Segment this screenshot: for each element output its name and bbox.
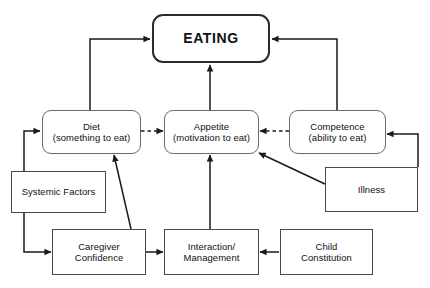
node-appetite-label: Appetite (motivation to eat) — [173, 121, 250, 143]
node-eating[interactable]: EATING — [152, 14, 270, 63]
edge-competence-to-eating — [272, 39, 337, 110]
edge-caregiver-to-diet — [114, 155, 131, 229]
edge-illness-to-appetite — [259, 153, 325, 184]
node-competence-label: Competence (ability to eat) — [309, 121, 367, 143]
node-eating-label: EATING — [183, 30, 238, 47]
node-illness[interactable]: Illness — [325, 167, 418, 212]
node-caregiver-confidence-label: Caregiver Confidence — [75, 241, 124, 263]
node-interaction-management[interactable]: Interaction/ Management — [164, 229, 259, 275]
node-appetite[interactable]: Appetite (motivation to eat) — [164, 110, 259, 154]
node-systemic-factors[interactable]: Systemic Factors — [11, 171, 106, 213]
node-competence[interactable]: Competence (ability to eat) — [289, 110, 386, 154]
node-caregiver-confidence[interactable]: Caregiver Confidence — [52, 229, 146, 275]
node-child-constitution-label: Child Constitution — [301, 241, 352, 263]
edge-diet-to-eating — [90, 39, 150, 110]
diagram-canvas: EATING Diet (something to eat) Appetite … — [0, 0, 430, 288]
node-diet[interactable]: Diet (something to eat) — [42, 110, 141, 154]
node-child-constitution[interactable]: Child Constitution — [280, 229, 373, 275]
edge-illness-to-competence — [387, 134, 418, 167]
node-illness-label: Illness — [358, 184, 385, 195]
node-systemic-factors-label: Systemic Factors — [22, 186, 96, 197]
node-diet-label: Diet (something to eat) — [53, 121, 130, 143]
node-interaction-management-label: Interaction/ Management — [184, 241, 240, 263]
